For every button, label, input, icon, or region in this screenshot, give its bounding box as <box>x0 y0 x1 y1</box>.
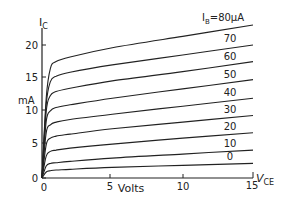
y-tick-label-0: 0 <box>32 173 38 184</box>
x-tick-label-0: 0 <box>41 182 47 193</box>
ib-label-50: 50 <box>224 69 237 80</box>
curve-ib-50 <box>42 80 253 178</box>
curve-ib-0 <box>42 163 253 178</box>
x-axis-symbol: VCE <box>256 172 274 187</box>
characteristic-curves <box>42 25 253 178</box>
y-axis-symbol: IC <box>39 16 48 31</box>
ib-label-40: 40 <box>224 87 237 98</box>
y-axis-unit: mA <box>18 95 35 106</box>
y-tick-label-10: 10 <box>25 105 38 116</box>
curve-ib-30 <box>42 116 253 179</box>
ib-label-30: 30 <box>224 104 237 115</box>
ib-label-10: 10 <box>224 138 237 149</box>
ib-label-70: 70 <box>224 33 237 44</box>
y-tick-label-15: 15 <box>25 72 38 83</box>
x-axis-title: Volts <box>118 182 145 195</box>
x-tick-label-10: 10 <box>177 181 190 192</box>
curve-ib-20 <box>42 133 253 178</box>
curve-ib-60 <box>42 62 253 178</box>
x-ticks <box>110 172 253 178</box>
ib-label-80: IB=80μA <box>202 12 244 26</box>
ib-label-0: 0 <box>227 151 233 162</box>
curve-ib-70 <box>42 45 253 178</box>
transistor-characteristics-chart: 0 5 10 15 20 IC mA 0 5 10 15 Volts VCE I… <box>0 0 286 201</box>
y-tick-label-5: 5 <box>32 138 38 149</box>
x-tick-label-5: 5 <box>107 181 113 192</box>
ib-label-20: 20 <box>224 121 237 132</box>
y-tick-label-20: 20 <box>25 40 38 51</box>
ib-label-60: 60 <box>224 51 237 62</box>
